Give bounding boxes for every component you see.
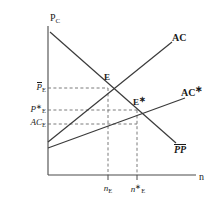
x-axis-title: n	[199, 172, 204, 182]
x-tick-n-star-subscript: E	[141, 187, 145, 194]
curve-label-ac-star-base: AC	[181, 87, 195, 98]
x-tick-n-subscript: E	[108, 187, 112, 194]
y-axis-title: PC	[50, 13, 60, 25]
overbar-group: P	[37, 82, 43, 92]
y-tick-ac-base: AC	[31, 117, 43, 127]
y-tick-p-bar-base: P	[37, 82, 43, 92]
x-tick-label-n-e: nE	[96, 184, 120, 194]
curve-ac	[48, 42, 172, 142]
curve-label-pp-bar: PP	[174, 144, 186, 155]
point-label-e: E	[104, 73, 110, 82]
curve-label-ac-star: AC∗	[181, 85, 203, 98]
y-tick-ac-subscript: E	[42, 121, 46, 128]
y-tick-label-p-star-e: P∗E	[6, 104, 46, 115]
overbar-group: PP	[174, 144, 186, 155]
x-tick-label-n-star-e: n∗E	[125, 184, 151, 195]
y-tick-label-ac-e: ACE	[2, 118, 46, 128]
economics-line-chart: PC n AC AC∗ PP E E∗ PE P∗E ACE nE n∗E	[0, 0, 221, 208]
y-tick-p-bar-subscript: E	[42, 86, 46, 93]
curve-ac-star	[48, 98, 185, 148]
y-axis-title-subscript: C	[56, 17, 61, 25]
y-tick-p-star-subscript: E	[42, 107, 46, 114]
point-label-e-star: E∗	[133, 96, 146, 107]
curve-label-pp-text: PP	[174, 144, 186, 155]
y-tick-label-p-bar-e: PE	[6, 82, 46, 93]
curve-label-ac: AC	[172, 33, 186, 43]
star-icon: ∗	[195, 84, 203, 94]
curve-pp-bar	[50, 32, 176, 143]
star-icon: ∗	[139, 95, 146, 104]
